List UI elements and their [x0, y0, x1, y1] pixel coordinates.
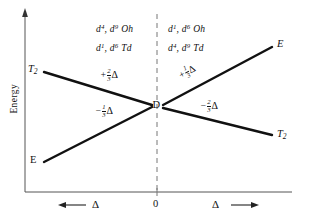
y-axis — [22, 8, 28, 192]
config-point-group: T — [190, 43, 198, 53]
term-symbol: E — [30, 154, 36, 165]
delta-symbol: Δ — [212, 100, 218, 111]
config-point-group-sub: d — [127, 43, 132, 53]
sign: − — [95, 106, 101, 116]
term-symbol: E — [277, 38, 283, 49]
term-label-right-upper: E — [277, 39, 283, 50]
config-sep: , — [105, 43, 108, 53]
term-label-right-lower: T2 — [277, 129, 287, 140]
config-point-group: O — [118, 24, 128, 34]
sign: + — [100, 70, 106, 80]
config-label-left-top: d4, d9Oh — [96, 24, 133, 35]
line-t2-left — [44, 72, 152, 105]
term-label-left-upper: T2 — [28, 64, 38, 75]
energy-label-right-lower: −23Δ — [200, 99, 218, 113]
delta-symbol: Δ — [107, 105, 113, 116]
energy-label-left-lower: −13Δ — [95, 104, 113, 118]
jahn-teller-splitting-diagram: Energy d4, d9Oh d1, d6Td d1, d6Oh d4, d9… — [0, 0, 312, 220]
config-point-group-sub: d — [199, 43, 204, 53]
config-label-left-bottom: d1, d6Td — [96, 43, 132, 54]
delta-symbol: Δ — [112, 69, 118, 80]
energy-label-left-upper: +23Δ — [100, 68, 118, 82]
config-label-right-bottom: d4, d9Td — [168, 43, 204, 54]
x-right-arrow-icon — [231, 202, 259, 208]
sign: − — [200, 101, 206, 111]
config-sep: , — [177, 24, 180, 34]
config-sep: , — [177, 43, 180, 53]
fraction: 23 — [107, 68, 111, 82]
x-axis-right-delta: Δ — [212, 199, 219, 210]
denominator: 3 — [107, 76, 111, 83]
x-axis-origin-label: 0 — [153, 199, 158, 210]
config-point-group-sub: h — [128, 24, 133, 34]
x-axis-left-delta: Δ — [92, 199, 99, 210]
fraction: 13 — [102, 104, 106, 118]
config-point-group: T — [118, 43, 126, 53]
term-label-left-lower: E — [30, 155, 36, 166]
y-axis-label: Energy — [10, 69, 20, 129]
config-sep: , — [105, 24, 108, 34]
config-label-right-top: d1, d6Oh — [168, 24, 205, 35]
config-point-group: O — [190, 24, 200, 34]
config-point-group-sub: h — [200, 24, 205, 34]
fraction: 23 — [207, 99, 211, 113]
center-node-label: D — [153, 100, 161, 111]
denominator: 3 — [207, 107, 211, 114]
denominator: 3 — [102, 112, 106, 119]
term-sub: 2 — [283, 132, 287, 141]
x-left-arrow-icon — [58, 202, 86, 208]
term-sub: 2 — [34, 67, 38, 76]
